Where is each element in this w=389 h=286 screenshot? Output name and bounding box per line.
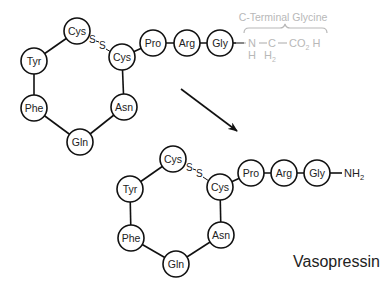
precursor-structure: S S Cys Tyr Phe Gln Asn Cys Pro Arg Gly …	[21, 11, 328, 155]
svg-text:Cys: Cys	[68, 25, 86, 37]
sulfur-2: S	[99, 40, 106, 51]
svg-text:Cys: Cys	[113, 51, 131, 63]
svg-text:Gly: Gly	[309, 167, 326, 179]
residue-cys-1: Cys	[64, 18, 90, 44]
vasopressin-diagram: S S Cys Tyr Phe Gln Asn Cys Pro Arg Gly …	[0, 0, 389, 286]
svg-text:Tyr: Tyr	[27, 55, 42, 67]
residue-asn: Asn	[111, 94, 137, 120]
residue-arg: Arg	[271, 160, 297, 186]
residue-pro: Pro	[238, 160, 264, 186]
c-terminal-glycine-annotation: C-Terminal Glycine N H C H2 CO2H	[236, 11, 328, 63]
diagram-title: Vasopressin	[293, 253, 380, 270]
svg-text:Pro: Pro	[145, 37, 162, 49]
residue-gly: Gly	[207, 30, 233, 56]
sulfur-1: S	[186, 162, 193, 173]
residue-cys-6: Cys	[207, 174, 233, 200]
sulfur-1: S	[89, 34, 96, 45]
residue-pro: Pro	[140, 30, 166, 56]
sulfur-2: S	[196, 168, 203, 179]
residue-arg: Arg	[174, 30, 200, 56]
svg-text:Asn: Asn	[115, 101, 133, 113]
residue-asn: Asn	[208, 222, 234, 248]
atom-co2h: CO2H	[289, 37, 320, 51]
atom-c: C	[268, 37, 276, 49]
atom-n: N	[248, 37, 256, 49]
svg-text:Asn: Asn	[212, 229, 230, 241]
residue-tyr: Tyr	[117, 176, 143, 202]
atom-c-h2: H2	[264, 49, 276, 63]
residue-gln: Gln	[67, 129, 93, 155]
svg-text:Cys: Cys	[211, 181, 229, 193]
svg-text:Arg: Arg	[179, 37, 196, 49]
precursor-disulfide-bridge: S S	[89, 34, 111, 52]
residue-gln: Gln	[163, 251, 189, 277]
svg-text:Cys: Cys	[164, 153, 182, 165]
residue-tyr: Tyr	[21, 48, 47, 74]
residue-gly: Gly	[304, 160, 330, 186]
svg-text:Gln: Gln	[168, 258, 185, 270]
atom-n-h: H	[248, 49, 256, 61]
svg-text:Tyr: Tyr	[123, 183, 138, 195]
residue-phe: Phe	[21, 95, 47, 121]
residue-cys-6: Cys	[109, 44, 135, 70]
conversion-arrow	[181, 89, 237, 131]
svg-text:Arg: Arg	[276, 167, 293, 179]
brace	[244, 24, 327, 33]
amide-terminal-group: NH2	[344, 167, 364, 182]
svg-text:Gln: Gln	[72, 136, 89, 148]
svg-text:Phe: Phe	[25, 102, 44, 114]
vasopressin-disulfide-bridge: S S	[186, 162, 209, 181]
c-terminal-glycine-label: C-Terminal Glycine	[239, 11, 328, 23]
residue-phe: Phe	[118, 225, 144, 251]
residue-cys-1: Cys	[160, 146, 186, 172]
svg-text:Phe: Phe	[122, 232, 141, 244]
svg-text:Pro: Pro	[243, 167, 260, 179]
svg-text:Gly: Gly	[212, 37, 229, 49]
